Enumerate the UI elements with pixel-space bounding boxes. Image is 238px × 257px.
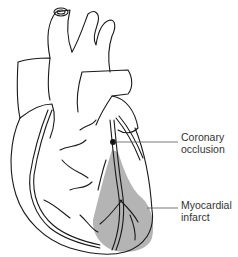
infarct-label-line1: Myocardial xyxy=(181,199,232,211)
myocardial-infarct-label: Myocardial infarct xyxy=(181,199,232,223)
infarct-label-line2: infarct xyxy=(181,211,232,223)
coronary-occlusion-label: Coronary occlusion xyxy=(181,131,225,155)
occlusion-point xyxy=(111,140,116,145)
occlusion-label-line1: Coronary xyxy=(181,131,225,143)
occlusion-label-line2: occlusion xyxy=(181,143,225,155)
